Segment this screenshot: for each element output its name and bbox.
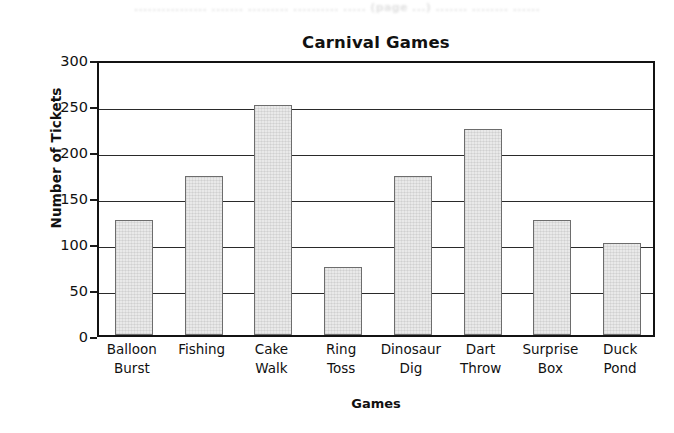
x-axis-title: Games [96, 396, 656, 411]
y-tick-mark-150 [90, 199, 97, 201]
chart-title: Carnival Games [96, 33, 656, 52]
plot-inner [99, 63, 653, 335]
y-tick-label-150: 150 [42, 191, 88, 207]
y-tick-label-200: 200 [42, 145, 88, 161]
x-tick-label-line-2: Box [516, 359, 586, 378]
x-tick-label-line-2: Toss [306, 359, 376, 378]
x-tick-label-fishing: Fishing [167, 340, 237, 359]
x-tick-label-balloon-burst: BalloonBurst [97, 340, 167, 378]
bar-cake-walk [254, 105, 292, 335]
bar-ring-toss [324, 267, 362, 335]
x-tick-label-line-2: Burst [97, 359, 167, 378]
bar-surprise-box [533, 220, 571, 335]
x-axis-tick-labels: BalloonBurstFishingCakeWalkRingTossDinos… [97, 340, 655, 392]
y-axis-tick-labels: 050100150200250300 [40, 61, 88, 337]
x-tick-label-line-2: Dig [376, 359, 446, 378]
y-tick-mark-50 [90, 291, 97, 293]
x-tick-label-line-1: Fishing [178, 341, 225, 357]
x-tick-label-line-1: Cake [255, 341, 288, 357]
y-tick-mark-300 [90, 61, 97, 63]
y-tick-label-0: 0 [42, 329, 88, 345]
x-tick-label-cake-walk: CakeWalk [237, 340, 307, 378]
x-tick-label-duck-pond: DuckPond [585, 340, 655, 378]
x-tick-label-dart-throw: DartThrow [446, 340, 516, 378]
y-tick-mark-0 [90, 337, 97, 339]
x-tick-label-line-2: Throw [446, 359, 516, 378]
x-tick-label-line-1: Dinosaur [381, 341, 441, 357]
bar-dart-throw [464, 129, 502, 335]
bar-dinosaur-dig [394, 176, 432, 335]
x-tick-label-line-1: Dart [466, 341, 496, 357]
y-tick-label-250: 250 [42, 99, 88, 115]
gridline-250 [99, 109, 653, 110]
bar-fishing [185, 176, 223, 335]
x-tick-label-line-1: Ring [326, 341, 356, 357]
x-tick-label-dinosaur-dig: DinosaurDig [376, 340, 446, 378]
x-tick-label-line-1: Balloon [107, 341, 157, 357]
y-tick-mark-200 [90, 153, 97, 155]
y-tick-mark-250 [90, 107, 97, 109]
y-tick-label-50: 50 [42, 283, 88, 299]
bar-balloon-burst [115, 220, 153, 335]
x-tick-label-line-2: Walk [237, 359, 307, 378]
gridline-150 [99, 201, 653, 202]
plot-area [97, 61, 655, 337]
bar-duck-pond [603, 243, 641, 335]
y-tick-label-300: 300 [42, 53, 88, 69]
gridline-200 [99, 155, 653, 156]
carnival-games-bar-chart: Carnival Games Number of Tickets 0501001… [0, 0, 674, 433]
x-tick-label-surprise-box: SurpriseBox [516, 340, 586, 378]
x-tick-label-line-2: Pond [585, 359, 655, 378]
x-tick-label-line-1: Duck [603, 341, 637, 357]
x-tick-label-line-1: Surprise [522, 341, 578, 357]
x-tick-label-ring-toss: RingToss [306, 340, 376, 378]
y-tick-label-100: 100 [42, 237, 88, 253]
y-tick-mark-100 [90, 245, 97, 247]
